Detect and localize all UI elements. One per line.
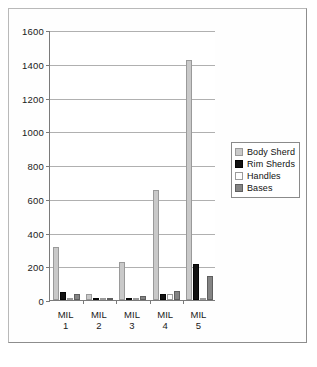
legend-swatch-icon-handles: [235, 172, 243, 180]
bar: [126, 298, 132, 300]
x-axis-label-line: 4: [157, 320, 173, 331]
bar-group: [183, 31, 216, 300]
x-axis-label-line: 1: [58, 320, 74, 331]
y-axis-tick: [46, 301, 50, 302]
y-axis-label: 200: [28, 262, 44, 273]
legend-swatch-icon-bases: [235, 184, 243, 192]
bar: [67, 298, 73, 300]
legend-label-bases: Bases: [247, 183, 273, 193]
legend-item-body-sherd: Body Sherd: [235, 146, 295, 158]
figure-frame: 02004006008001000120014001600 MIL1MIL2MI…: [8, 8, 307, 343]
legend-label-body-sherd: Body Sherd: [247, 147, 295, 157]
chart-legend: Body Sherd Rim Sherds Handles Bases: [231, 142, 300, 198]
bar: [133, 298, 139, 300]
x-axis-tick: [150, 300, 151, 304]
bar: [100, 298, 106, 300]
bar: [107, 298, 113, 300]
bar: [160, 294, 166, 300]
bar: [60, 292, 66, 300]
bar: [53, 247, 59, 300]
legend-label-handles: Handles: [247, 171, 281, 181]
x-axis-label: MIL2: [91, 309, 107, 331]
legend-label-rim-sherds: Rim Sherds: [247, 159, 295, 169]
bar-group: [50, 31, 83, 300]
x-axis-label: MIL1: [58, 309, 74, 331]
bar: [74, 294, 80, 300]
x-axis-tick: [116, 300, 117, 304]
y-axis-label: 0: [39, 296, 44, 307]
x-axis-label-line: MIL: [190, 309, 206, 320]
x-axis-tick: [183, 300, 184, 304]
x-axis-label: MIL3: [124, 309, 140, 331]
x-axis-label-line: 3: [124, 320, 140, 331]
legend-item-rim-sherds: Rim Sherds: [235, 158, 295, 170]
legend-item-bases: Bases: [235, 182, 295, 194]
bar: [193, 264, 199, 300]
x-axis-label-line: 5: [190, 320, 206, 331]
bar-group: [83, 31, 116, 300]
bar: [153, 190, 159, 300]
legend-swatch-icon-rim-sherds: [235, 160, 243, 168]
y-axis-label: 1000: [22, 127, 44, 138]
x-axis-tick: [83, 300, 84, 304]
bar: [200, 298, 206, 300]
x-axis-label-line: MIL: [91, 309, 107, 320]
y-axis-label: 1600: [22, 26, 44, 37]
x-axis-label-line: MIL: [157, 309, 173, 320]
y-axis-label: 800: [28, 161, 44, 172]
legend-item-handles: Handles: [235, 170, 295, 182]
bar-group: [150, 31, 183, 300]
bar: [207, 276, 213, 300]
bar-group: [116, 31, 149, 300]
bar: [86, 294, 92, 300]
x-axis-label-line: MIL: [58, 309, 74, 320]
bar: [174, 291, 180, 300]
x-axis-label: MIL4: [157, 309, 173, 331]
bar: [186, 60, 192, 300]
x-axis-label: MIL5: [190, 309, 206, 331]
y-axis-label: 400: [28, 228, 44, 239]
legend-swatch-icon-body-sherd: [235, 148, 243, 156]
bar-chart: 02004006008001000120014001600 MIL1MIL2MI…: [9, 9, 308, 342]
bar: [167, 294, 173, 300]
y-axis-label: 1400: [22, 59, 44, 70]
bar: [119, 262, 125, 300]
x-axis-label-line: 2: [91, 320, 107, 331]
y-axis-label: 1200: [22, 93, 44, 104]
y-axis-label: 600: [28, 194, 44, 205]
bar: [140, 296, 146, 300]
x-axis-label-line: MIL: [124, 309, 140, 320]
plot-area: 02004006008001000120014001600: [49, 31, 215, 301]
plot-wrapper: 02004006008001000120014001600: [49, 31, 215, 301]
bar: [93, 298, 99, 300]
